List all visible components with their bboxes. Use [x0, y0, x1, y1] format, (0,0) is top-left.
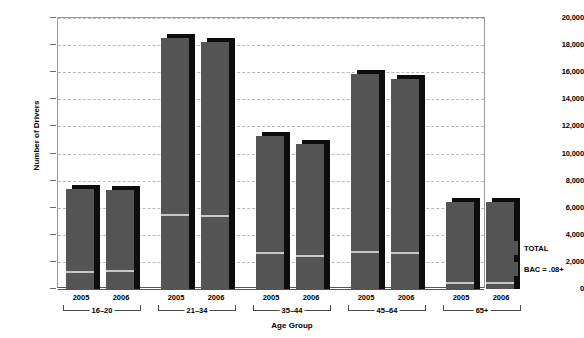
bar-total — [446, 202, 474, 289]
bar-bac-divider — [446, 282, 474, 284]
legend-label: TOTAL — [524, 244, 548, 253]
y-axis-tick-label: 12,000 — [532, 121, 584, 130]
bar-total — [106, 190, 134, 289]
bar-total — [351, 74, 379, 289]
bar-bac-divider — [256, 252, 284, 254]
x-axis-year-label: 2005 — [453, 293, 470, 302]
legend-item: TOTAL — [503, 241, 564, 255]
x-axis-year-label: 2006 — [208, 293, 225, 302]
gridline — [58, 289, 484, 290]
x-axis-year-label: 2005 — [358, 293, 375, 302]
y-axis-tick-mark — [50, 234, 56, 235]
age-group-label: 35–44 — [280, 306, 305, 315]
bar-bac-divider — [296, 255, 324, 257]
age-group-label: 16–20 — [90, 306, 115, 315]
x-axis-year-label: 2006 — [113, 293, 130, 302]
y-axis-tick-label: 10,000 — [532, 148, 584, 157]
y-axis-tick-mark — [50, 207, 56, 208]
bar-total — [296, 144, 324, 289]
age-group-label: 65+ — [474, 306, 491, 315]
bar-total — [391, 79, 419, 289]
bar-total — [256, 136, 284, 289]
x-axis-title: Age Group — [0, 321, 584, 330]
legend-item: BAC = .08+ — [503, 262, 564, 276]
legend-swatch-total — [503, 241, 518, 255]
y-axis-tick-mark — [50, 17, 56, 18]
legend-swatch-bac — [503, 262, 518, 276]
y-axis-tick-label: 18,000 — [532, 40, 584, 49]
y-axis-tick-label: 0 — [532, 284, 584, 293]
gridline — [58, 18, 484, 19]
bar-total — [66, 189, 94, 289]
x-axis-year-label: 2005 — [168, 293, 185, 302]
bar-chart: Number of Drivers 02,0004,0006,0008,0001… — [0, 0, 584, 338]
x-axis-year-label: 2006 — [493, 293, 510, 302]
y-axis-tick-mark — [50, 44, 56, 45]
bar-bac-divider — [201, 215, 229, 217]
bar-bac-divider — [351, 251, 379, 253]
legend-label: BAC = .08+ — [524, 265, 564, 274]
y-axis-tick-mark — [50, 98, 56, 99]
x-axis-year-label: 2005 — [263, 293, 280, 302]
bar-bac-divider — [161, 214, 189, 216]
chart-legend: TOTALBAC = .08+ — [503, 241, 564, 283]
y-axis-tick-label: 20,000 — [532, 13, 584, 22]
age-group-label: 45–64 — [375, 306, 400, 315]
bar-total — [161, 38, 189, 289]
y-axis-tick-mark — [50, 71, 56, 72]
bar-bac-divider — [391, 252, 419, 254]
y-axis-tick-label: 6,000 — [532, 202, 584, 211]
y-axis-tick-mark — [50, 288, 56, 289]
gridline — [58, 45, 484, 46]
y-axis-tick-mark — [50, 125, 56, 126]
x-axis-year-label: 2005 — [73, 293, 90, 302]
y-axis-tick-label: 8,000 — [532, 175, 584, 184]
y-axis-title-text: Number of Drivers — [32, 101, 41, 171]
y-axis-tick-label: 4,000 — [532, 229, 584, 238]
y-axis-tick-label: 14,000 — [532, 94, 584, 103]
y-axis-tick-mark — [50, 180, 56, 181]
x-axis-title-text: Age Group — [271, 321, 312, 330]
y-axis-tick-mark — [50, 153, 56, 154]
x-axis-year-label: 2006 — [303, 293, 320, 302]
bar-bac-divider — [106, 270, 134, 272]
y-axis-tick-label: 16,000 — [532, 67, 584, 76]
plot-area — [57, 17, 485, 288]
y-axis-tick-mark — [50, 261, 56, 262]
gridline — [58, 72, 484, 73]
bar-bac-divider — [66, 271, 94, 273]
age-group-label: 21–34 — [185, 306, 210, 315]
x-axis-year-label: 2006 — [398, 293, 415, 302]
bar-total — [201, 42, 229, 289]
